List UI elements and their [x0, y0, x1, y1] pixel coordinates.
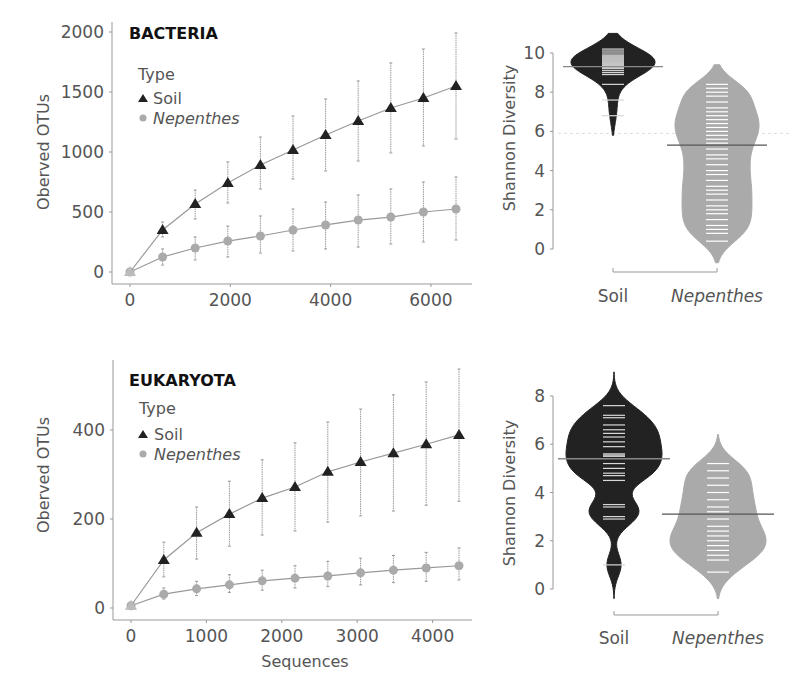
y-tick-label: 400: [73, 420, 105, 440]
legend-label-nepenthes: Nepenthes: [153, 109, 240, 128]
legend-title: Type: [138, 399, 176, 418]
data-point-nepenthes: [356, 568, 365, 577]
y-tick-label: 0: [94, 598, 105, 618]
x-category-label: Nepenthes: [672, 628, 764, 648]
x-tick-label: 4000: [411, 626, 454, 646]
legend-label-nepenthes: Nepenthes: [154, 445, 241, 464]
legend-eukaryota: Type Soil Nepenthes: [138, 399, 241, 464]
y-tick-label: 10: [523, 43, 545, 63]
y-tick-label: 0: [534, 239, 545, 259]
legend-marker-nepenthes-circle-icon: [140, 115, 147, 122]
bacteria-shannon-panel: Shannon Diversity 0246810SoilNepenthes: [500, 33, 790, 306]
data-point-soil: [453, 429, 465, 439]
x-tick-label: 2000: [260, 626, 303, 646]
x-category-label: Soil: [599, 628, 630, 648]
y-tick-label: 0: [534, 579, 545, 599]
data-point-soil: [450, 80, 462, 90]
y-tick-label: 0: [93, 262, 104, 282]
data-point-nepenthes: [323, 571, 332, 580]
x-tick-label: 2000: [209, 290, 252, 310]
eukaryota-shannon-panel: Shannon Diversity 02468SoilNepenthes: [500, 372, 774, 648]
data-point-nepenthes: [354, 216, 363, 225]
data-point-soil: [191, 527, 203, 537]
data-point-nepenthes: [289, 226, 298, 235]
data-point-soil: [320, 129, 332, 139]
y-axis-title-shannon-eukaryota: Shannon Diversity: [500, 420, 519, 567]
y-tick-label: 6: [534, 121, 545, 141]
data-point-nepenthes: [192, 584, 201, 593]
data-point-nepenthes: [291, 574, 300, 583]
data-point-nepenthes: [258, 576, 267, 585]
data-point-soil: [223, 508, 235, 518]
data-point-nepenthes: [256, 232, 265, 241]
y-tick-label: 8: [534, 82, 545, 102]
y-tick-label: 1500: [61, 82, 104, 102]
bacteria-rarefaction-panel: BACTERIA Oberved OTUs Type Soil Nepenthe…: [34, 22, 472, 310]
data-point-nepenthes: [452, 205, 461, 214]
y-tick-label: 2: [534, 200, 545, 220]
data-point-nepenthes: [455, 561, 464, 570]
y-axis-title-shannon-bacteria: Shannon Diversity: [500, 65, 519, 212]
x-axis-bracket: [613, 268, 717, 272]
y-tick-label: 4: [534, 483, 545, 503]
y-tick-label: 8: [534, 386, 545, 406]
x-tick-label: 0: [126, 626, 137, 646]
legend-bacteria: Type Soil Nepenthes: [137, 65, 240, 128]
data-point-soil: [157, 224, 169, 234]
data-point-nepenthes: [419, 208, 428, 217]
panel-title-eukaryota: EUKARYOTA: [129, 371, 236, 390]
x-category-label: Nepenthes: [671, 286, 763, 306]
legend-marker-nepenthes-circle-icon: [140, 451, 147, 458]
y-tick-label: 4: [534, 161, 545, 181]
data-point-soil: [222, 177, 234, 187]
x-tick-label: 0: [125, 290, 136, 310]
x-tick-label: 6000: [409, 290, 452, 310]
data-point-nepenthes: [158, 253, 167, 262]
legend-marker-soil-triangle-icon: [138, 430, 148, 438]
y-tick-label: 6: [534, 434, 545, 454]
data-point-nepenthes: [225, 580, 234, 589]
data-point-nepenthes: [191, 244, 200, 253]
legend-label-soil: Soil: [153, 89, 182, 108]
data-point-nepenthes: [321, 220, 330, 229]
y-tick-label: 2: [534, 531, 545, 551]
x-tick-label: 3000: [336, 626, 379, 646]
panel-title-bacteria: BACTERIA: [129, 24, 218, 43]
x-category-label: Soil: [598, 286, 629, 306]
x-tick-label: 1000: [185, 626, 228, 646]
legend-title: Type: [137, 65, 175, 84]
y-tick-label: 1000: [61, 142, 104, 162]
x-axis-bracket: [614, 611, 718, 615]
x-axis-title-eukaryota: Sequences: [261, 652, 348, 671]
eukaryota-rarefaction-panel: EUKARYOTA Oberved OTUs Sequences Type So…: [34, 360, 472, 671]
y-tick-label: 500: [72, 202, 104, 222]
violin-nepenthes: [670, 435, 766, 599]
data-point-nepenthes: [223, 237, 232, 246]
data-point-soil: [289, 481, 301, 491]
data-point-soil: [158, 554, 170, 564]
data-point-nepenthes: [159, 590, 168, 599]
legend-marker-soil-triangle-icon: [138, 94, 148, 102]
y-tick-label: 200: [73, 509, 105, 529]
data-point-soil: [254, 159, 266, 169]
data-point-soil: [352, 115, 364, 125]
legend-label-soil: Soil: [154, 425, 183, 444]
data-point-soil: [287, 144, 299, 154]
data-point-nepenthes: [389, 566, 398, 575]
y-axis-title-bacteria: Oberved OTUs: [34, 94, 53, 210]
figure-canvas: BACTERIA Oberved OTUs Type Soil Nepenthe…: [0, 0, 802, 695]
x-tick-label: 4000: [309, 290, 352, 310]
data-point-soil: [189, 198, 201, 208]
y-tick-label: 2000: [61, 22, 104, 42]
data-point-nepenthes: [386, 213, 395, 222]
data-point-nepenthes: [422, 563, 431, 572]
y-axis-title-eukaryota: Oberved OTUs: [34, 417, 53, 533]
